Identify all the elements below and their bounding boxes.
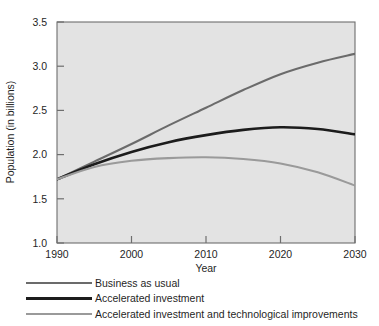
x-axis-title: Year (195, 262, 217, 274)
y-axis-title: Population (in billions) (4, 81, 16, 184)
x-tick-label-2020: 2020 (269, 248, 293, 260)
x-tick-label-2030: 2030 (343, 248, 367, 260)
x-tick-label-2010: 2010 (194, 248, 218, 260)
y-tick-label-1.5: 1.5 (32, 193, 47, 205)
y-tick-label-1.0: 1.0 (32, 237, 47, 249)
x-tick-label-2000: 2000 (120, 248, 144, 260)
population-projection-figure: 1.01.52.02.53.03.5 19902000201020202030 … (0, 0, 379, 326)
plot-area-background (57, 22, 355, 243)
legend-label-business-as-usual: Business as usual (95, 277, 180, 289)
legend-label-accelerated-investment: Accelerated investment (95, 292, 204, 304)
y-tick-label-3.0: 3.0 (32, 60, 47, 72)
y-tick-label-2.0: 2.0 (32, 148, 47, 160)
population-projection-chart: 1.01.52.02.53.03.5 19902000201020202030 … (0, 0, 379, 326)
y-tick-label-3.5: 3.5 (32, 16, 47, 28)
y-tick-label-2.5: 2.5 (32, 104, 47, 116)
x-tick-label-1990: 1990 (45, 248, 69, 260)
legend-label-accelerated-investment-and-technological-improvements: Accelerated investment and technological… (95, 308, 358, 320)
